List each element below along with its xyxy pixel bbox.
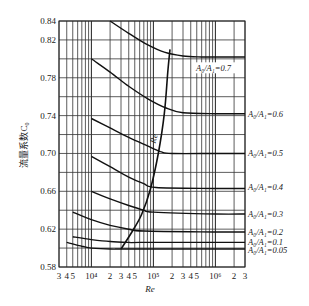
x-axis-label: Re [144, 284, 155, 294]
y-tick-label: 0.78 [40, 73, 56, 83]
x-tick-label: 4 [188, 271, 193, 281]
x-tick-label: 4 [64, 271, 69, 281]
curve-a0-a1-0.7 [110, 21, 245, 57]
x-tick-label: 3 [57, 271, 62, 281]
curve-label: A₀/A₁=0.05 [247, 245, 287, 255]
y-axis-label-sub: 0 [24, 122, 30, 125]
y-tick-label: 0.74 [40, 111, 56, 121]
x-tick-label: 3 [243, 271, 248, 281]
x-tick-label: 3 [119, 271, 124, 281]
x-tick-label: 5 [71, 271, 76, 281]
x-tick-label: 3 [181, 271, 186, 281]
x-tick-label: 10⁵ [147, 271, 159, 281]
chart-svg: 0.580.620.660.700.740.780.820.84 34510⁴2… [0, 0, 309, 306]
y-axis-label-text: 流量系数C [18, 125, 29, 167]
curve-label: A₀/A₁=0.3 [247, 209, 283, 219]
curve-label: A₀/A₁=0.4 [247, 182, 284, 192]
curve-label: A₀/A₁=0.2 [247, 227, 284, 237]
y-tick-label: 0.82 [40, 35, 56, 45]
x-tick-label: 5 [195, 271, 200, 281]
curve-a0-a1-0.3 [91, 191, 245, 214]
curve-labels: A₀/A₁=0.7A₀/A₁=0.6A₀/A₁=0.5A₀/A₁=0.4A₀/A… [147, 62, 287, 255]
y-axis-ticks: 0.580.620.660.700.740.780.820.84 [40, 16, 56, 272]
curve-label: A₀/A₁=0.5 [247, 148, 283, 158]
y-tick-label: 0.70 [40, 148, 56, 158]
y-tick-label: 0.62 [40, 224, 56, 234]
x-tick-label: 10⁶ [209, 271, 221, 281]
x-tick-label: 4 [126, 271, 131, 281]
x-tick-label: 2 [108, 271, 113, 281]
x-tick-label: 10⁴ [85, 271, 97, 281]
y-axis-label: 流量系数C0 [18, 122, 30, 167]
plot-frame [59, 21, 245, 267]
x-tick-label: 2 [232, 271, 237, 281]
x-axis-ticks: 34510⁴234510⁵234510⁶23 [57, 271, 248, 281]
grid [59, 21, 245, 267]
svg-text:流量系数C0: 流量系数C0 [18, 122, 30, 167]
x-tick-label: 2 [170, 271, 175, 281]
flow-coefficient-chart: 0.580.620.660.700.740.780.820.84 34510⁴2… [0, 0, 309, 306]
x-tick-label: 5 [133, 271, 138, 281]
y-tick-label: 0.66 [40, 186, 56, 196]
curve-a0-a1-0.1 [73, 237, 245, 243]
curve-label: A₀/A₁=0.6 [247, 109, 284, 119]
y-tick-label: 0.58 [40, 262, 56, 272]
y-tick-label: 0.84 [40, 16, 56, 26]
curve-label: A₀/A₁=0.7 [195, 63, 232, 73]
curve-a0-a1-0.5 [91, 119, 245, 154]
